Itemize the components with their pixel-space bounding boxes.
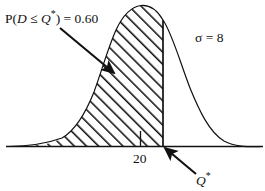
probability-quantile-symbol: Q xyxy=(41,11,51,26)
probability-variable: D xyxy=(17,11,27,26)
normal-distribution-figure: P(D ≤ Q*) = 0.60 σ = 8 20 Q* xyxy=(0,0,265,191)
sigma-equals: = xyxy=(202,30,216,45)
probability-value: 0.60 xyxy=(75,11,99,26)
probability-suffix: ) = xyxy=(56,11,75,26)
probability-prefix: P( xyxy=(5,11,17,26)
quantile-axis-star: * xyxy=(206,170,211,181)
mean-tick-label: 20 xyxy=(133,152,147,166)
probability-relation: ≤ xyxy=(27,11,41,26)
sigma-annotation: σ = 8 xyxy=(195,31,223,45)
sigma-value: 8 xyxy=(217,30,224,45)
quantile-leader-arrow xyxy=(165,148,196,174)
probability-leader-arrow xyxy=(60,28,114,73)
quantile-axis-label: Q* xyxy=(196,171,211,187)
probability-annotation: P(D ≤ Q*) = 0.60 xyxy=(5,9,98,25)
quantile-axis-symbol: Q xyxy=(196,173,206,188)
